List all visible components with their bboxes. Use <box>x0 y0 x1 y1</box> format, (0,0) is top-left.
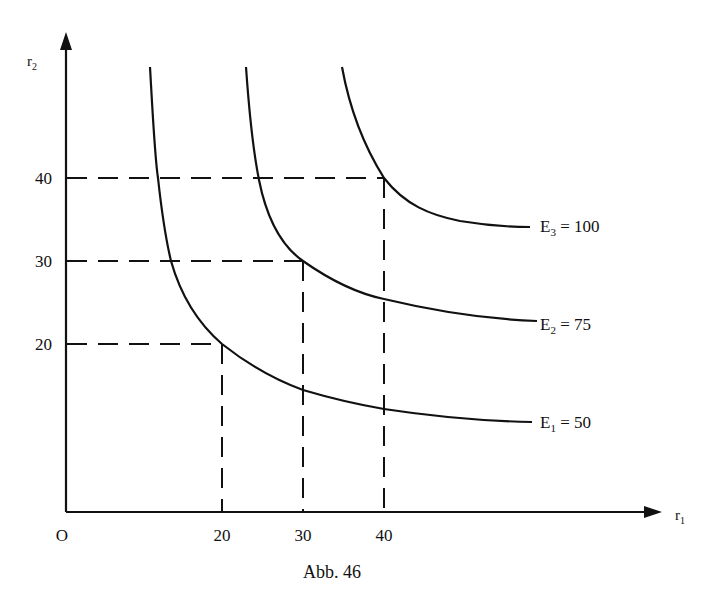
x-axis-arrow-icon <box>644 506 662 518</box>
curve-e2 <box>246 67 537 321</box>
origin-label: O <box>56 526 68 545</box>
reference-lines <box>67 178 384 511</box>
x-axis-label-sub: 1 <box>680 515 685 526</box>
x-tick-40: 40 <box>376 526 393 545</box>
curve-e3 <box>342 67 530 227</box>
x-axis-label: r1 <box>675 507 685 526</box>
curve-label-e3: E3 = 100 <box>540 217 599 238</box>
curves <box>150 67 537 422</box>
svg-text:r2: r2 <box>27 53 37 72</box>
y-tick-30: 30 <box>35 252 52 271</box>
x-tick-30: 30 <box>295 526 312 545</box>
y-axis-label: r2 <box>27 53 37 72</box>
y-axis-label-sub: 2 <box>32 61 37 72</box>
figure-caption: Abb. 46 <box>303 562 361 582</box>
curve-label-e1: E1 = 50 <box>540 413 591 434</box>
curve-label-e2: E2 = 75 <box>540 315 591 336</box>
curve-e1 <box>150 67 532 422</box>
y-tick-20: 20 <box>35 335 52 354</box>
y-tick-labels: 40 30 20 <box>35 169 52 354</box>
curve-labels: E3 = 100 E2 = 75 E1 = 50 <box>540 217 599 434</box>
isoquant-chart: r2 r1 40 30 20 O 20 30 40 E3 = 100 <box>0 0 717 612</box>
y-tick-40: 40 <box>35 169 52 188</box>
x-tick-labels: O 20 30 40 <box>56 526 393 545</box>
y-axis-arrow-icon <box>60 32 72 50</box>
x-tick-20: 20 <box>214 526 231 545</box>
svg-text:r1: r1 <box>675 507 685 526</box>
